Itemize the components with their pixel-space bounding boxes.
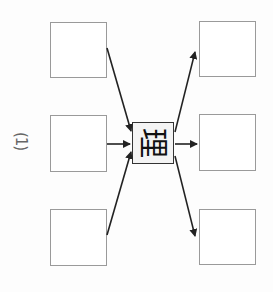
arrows — [0, 0, 273, 292]
diagram-canvas: (1) 理 — [0, 0, 273, 292]
